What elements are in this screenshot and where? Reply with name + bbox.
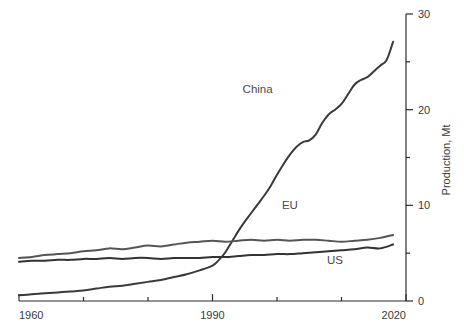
y-axis-title: Production, Mt [440, 125, 452, 196]
line-chart: 1960199020200102030Production, Mt ChinaE… [0, 0, 464, 328]
series-label-us: US [327, 254, 343, 266]
axes-group: 1960199020200102030Production, Mt [19, 8, 452, 321]
y-tick-label: 30 [418, 8, 430, 20]
y-tick-label: 0 [418, 295, 424, 307]
x-tick-label: 2020 [382, 309, 406, 321]
x-tick-label: 1960 [19, 309, 43, 321]
chart-container: 1960199020200102030Production, Mt ChinaE… [0, 0, 464, 328]
series-label-eu: EU [282, 199, 298, 211]
x-tick-label: 1990 [200, 309, 224, 321]
y-tick-label: 20 [418, 104, 430, 116]
y-tick-label: 10 [418, 199, 430, 211]
series-labels-group: ChinaEUUS [243, 83, 344, 265]
series-label-china: China [243, 83, 274, 95]
